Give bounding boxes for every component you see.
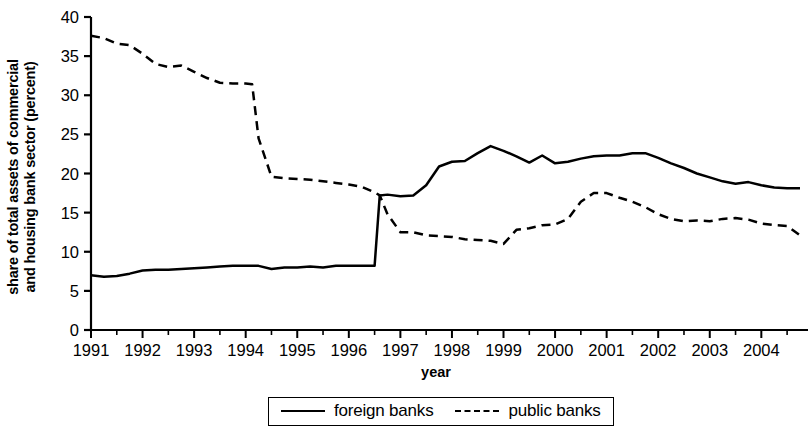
y-tick-label: 5 <box>70 282 79 300</box>
y-tick-label: 30 <box>61 86 79 104</box>
x-tick-label: 1994 <box>227 341 264 359</box>
x-axis-ticks <box>91 330 787 338</box>
x-tick-label: 2000 <box>537 341 574 359</box>
y-tick-label: 20 <box>61 165 79 183</box>
x-tick-label: 1996 <box>330 341 367 359</box>
data-series-group <box>91 36 800 277</box>
legend-label-foreign-banks: foreign banks <box>334 401 433 421</box>
x-tick-label: 2002 <box>640 341 677 359</box>
y-tick-label: 15 <box>61 204 79 222</box>
y-tick-label: 10 <box>61 243 79 261</box>
legend-swatch-solid <box>281 410 325 412</box>
x-tick-label: 1992 <box>124 341 161 359</box>
legend-item-foreign-banks: foreign banks <box>281 401 433 421</box>
x-tick-label: 1991 <box>73 341 110 359</box>
y-tick-label: 0 <box>70 321 79 339</box>
x-tick-label: 1999 <box>485 341 522 359</box>
chart-legend: foreign banks public banks <box>268 397 614 426</box>
plot-area: 0510152025303540 19911992199319941995199… <box>0 0 812 390</box>
series-line-public-banks <box>91 36 800 244</box>
x-axis-tick-labels: 1991199219931994199519961997199819992000… <box>73 341 780 359</box>
y-tick-label: 25 <box>61 125 79 143</box>
x-tick-label: 1998 <box>434 341 471 359</box>
x-tick-label: 2004 <box>743 341 780 359</box>
y-axis-tick-labels: 0510152025303540 <box>61 8 79 339</box>
chart-figure: share of total assets of commercial and … <box>0 0 812 427</box>
legend-label-public-banks: public banks <box>508 401 600 421</box>
legend-item-public-banks: public banks <box>455 401 600 421</box>
x-tick-label: 1997 <box>382 341 419 359</box>
chart-canvas: 0510152025303540 19911992199319941995199… <box>0 0 812 390</box>
legend-swatch-dashed <box>455 410 499 412</box>
series-line-foreign-banks <box>91 146 800 277</box>
x-tick-label: 1995 <box>279 341 316 359</box>
x-tick-label: 2003 <box>691 341 728 359</box>
x-axis-title: year <box>0 364 812 380</box>
x-tick-label: 2001 <box>588 341 625 359</box>
y-tick-label: 40 <box>61 8 79 26</box>
y-tick-label: 35 <box>61 47 79 65</box>
x-tick-label: 1993 <box>176 341 213 359</box>
